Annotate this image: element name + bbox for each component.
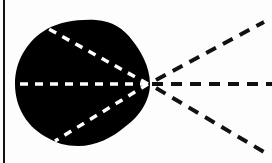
- ray-upper-right: [156, 22, 264, 80]
- ray-lower-right: [156, 88, 264, 152]
- outer-rays: [152, 22, 272, 152]
- polar-pattern-diagram: [0, 0, 272, 163]
- diagram-canvas: [0, 0, 272, 163]
